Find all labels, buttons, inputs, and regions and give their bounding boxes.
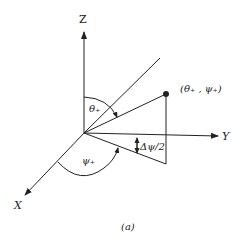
y-axis: [84, 133, 218, 136]
theta-label: θ₊: [89, 103, 100, 114]
psi-label: ψ₊: [82, 155, 95, 166]
figure-caption: (a): [121, 221, 135, 232]
point-label: (θ₊ , ψ₊): [180, 83, 222, 94]
delta-psi-label: Δψ/2: [139, 141, 165, 152]
y-axis-label: Y: [222, 130, 231, 143]
x-axis: [25, 133, 84, 195]
x-axis-label: X: [13, 199, 23, 212]
z-axis-label: Z: [79, 13, 87, 26]
spherical-angle-diagram: Z Y X θ₊ ψ₊ Δψ/2 (θ₊ , ψ₊) (a): [0, 0, 240, 241]
point-marker: [163, 91, 169, 97]
direction-ray: [84, 58, 160, 133]
